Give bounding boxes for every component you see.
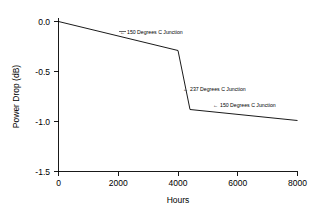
annotation-150-c-upper: ← 150 Degrees C Junction: [119, 29, 183, 35]
x-tick-label-0: 0: [56, 178, 61, 188]
y-tick-label-3: -1.5: [35, 167, 50, 177]
y-tick-label-1: -0.5: [35, 67, 50, 77]
annotation-arrow-1: ←: [120, 29, 125, 35]
annotation-arrow-3: ←: [213, 102, 218, 108]
annotation-label-2: 237 Degrees C Junction: [190, 86, 246, 92]
x-axis-title: Hours: [167, 195, 190, 205]
annotation-label-3: 150 Degrees C Junction: [220, 102, 276, 108]
annotation-237-c: ← 237 Degrees C Junction: [183, 86, 246, 92]
x-tick-label-3: 6000: [228, 178, 247, 188]
y-axis-title: Power Drop (dB): [11, 65, 21, 128]
annotation-label-1: 150 Degrees C Junction: [127, 29, 183, 35]
y-tick-label-0: 0.0: [38, 17, 50, 27]
x-tick-label-1: 2000: [109, 178, 128, 188]
x-tick-label-4: 8000: [288, 178, 307, 188]
y-tick-label-2: -1.0: [35, 117, 50, 127]
annotation-150-c-lower: ← 150 Degrees C Junction: [213, 102, 276, 108]
line-chart: 0.0 -0.5 -1.0 -1.5 0 2000 4000 6000 8000…: [0, 0, 321, 217]
chart-figure: 0.0 -0.5 -1.0 -1.5 0 2000 4000 6000 8000…: [0, 0, 321, 217]
x-tick-label-2: 4000: [169, 178, 188, 188]
annotation-arrow-2: ←: [183, 86, 188, 92]
